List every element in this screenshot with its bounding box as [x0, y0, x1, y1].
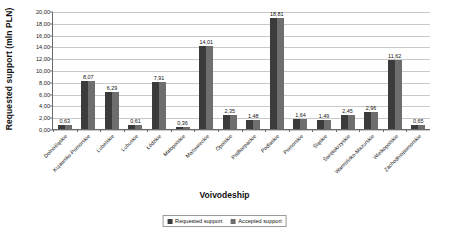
bar-requested-support[interactable]: [223, 115, 230, 129]
x-axis-tick-cell: Podkarpackie: [241, 131, 265, 189]
x-axis-tick-cell: Warmińsko-Mazurskie: [359, 131, 383, 189]
bar-accepted-support[interactable]: [253, 120, 260, 129]
bar-requested-support[interactable]: [411, 125, 418, 129]
bar-requested-support[interactable]: [364, 112, 371, 129]
x-axis-tick-cell: Mazowieckie: [194, 131, 218, 189]
bar-requested-support[interactable]: [341, 115, 348, 129]
x-axis-tick-cell: Lubelskie: [99, 131, 123, 189]
x-axis-tick-cell: Zachodniopomorskie: [406, 131, 430, 189]
x-axis-tick-cell: Podlaskie: [265, 131, 289, 189]
y-axis-title: Requested support (mln PLN): [2, 8, 16, 130]
bar-value-label: 1,64: [295, 112, 306, 118]
bar-requested-support[interactable]: [388, 60, 395, 129]
y-axis-tick-label: 4,00: [39, 103, 50, 109]
bar-group[interactable]: 8,07: [77, 12, 101, 129]
bar-accepted-support[interactable]: [348, 115, 355, 129]
bar-requested-support[interactable]: [270, 18, 277, 129]
bar-requested-support[interactable]: [317, 120, 324, 129]
bar-requested-support[interactable]: [58, 125, 65, 129]
bar-requested-support[interactable]: [199, 46, 206, 129]
bar-value-label: 1,48: [248, 113, 259, 119]
bar-value-label: 0,36: [177, 120, 188, 126]
bar-accepted-support[interactable]: [277, 18, 284, 129]
bar-group[interactable]: 1,48: [242, 12, 266, 129]
x-axis-tick-cell: Lubuskie: [123, 131, 147, 189]
bar-value-label: 2,35: [224, 108, 235, 114]
bar-group[interactable]: 7,91: [147, 12, 171, 129]
bar-accepted-support[interactable]: [418, 125, 425, 129]
bar-value-label: 0,63: [60, 118, 71, 124]
x-axis-title: Voivodeship: [0, 190, 449, 200]
bar-group[interactable]: 1,49: [312, 12, 336, 129]
bar-requested-support[interactable]: [293, 119, 300, 129]
bar-group[interactable]: 2,45: [336, 12, 360, 129]
bar-accepted-support[interactable]: [112, 92, 119, 129]
chart-legend: Requested support Accepted support: [162, 215, 287, 227]
bar-accepted-support[interactable]: [324, 120, 331, 129]
bar-accepted-support[interactable]: [300, 119, 307, 129]
bar-value-label: 2,96: [366, 105, 377, 111]
bar-requested-support[interactable]: [81, 81, 88, 129]
bar-accepted-support[interactable]: [395, 60, 402, 129]
bar-accepted-support[interactable]: [230, 115, 237, 129]
bar-accepted-support[interactable]: [371, 112, 378, 129]
x-axis-tick-cell: Kujawsko-Pomorskie: [76, 131, 100, 189]
y-axis-tick-label: 16,00: [36, 33, 50, 39]
bar-group[interactable]: 18,81: [265, 12, 289, 129]
x-axis-tick-cell: Łódzkie: [147, 131, 171, 189]
plot-area: 0,002,004,006,008,0010,0012,0014,0016,00…: [52, 12, 430, 130]
bar-group[interactable]: 14,01: [194, 12, 218, 129]
bar-accepted-support[interactable]: [88, 81, 95, 129]
legend-item-requested-support: Requested support: [167, 218, 222, 224]
bar-group[interactable]: 11,62: [383, 12, 407, 129]
bar-requested-support[interactable]: [152, 82, 159, 129]
x-axis-tick-label: Lubuskie: [119, 133, 139, 153]
bar-accepted-support[interactable]: [183, 127, 190, 129]
bar-value-label: 8,07: [83, 74, 94, 80]
bar-accepted-support[interactable]: [65, 125, 72, 129]
legend-swatch-icon-accepted: [230, 219, 235, 224]
x-axis-tick-cell: Małopolskie: [170, 131, 194, 189]
x-axis-tick-cell: Opolskie: [217, 131, 241, 189]
bar-group[interactable]: 0,63: [53, 12, 77, 129]
bar-requested-support[interactable]: [105, 92, 112, 129]
bar-group[interactable]: 0,36: [171, 12, 195, 129]
y-axis-tick-label: 2,00: [39, 115, 50, 121]
bar-group[interactable]: 2,96: [359, 12, 383, 129]
legend-label-accepted: Accepted support: [238, 218, 282, 224]
bar-group[interactable]: 0,65: [406, 12, 430, 129]
bar-group[interactable]: 6,29: [100, 12, 124, 129]
bar-accepted-support[interactable]: [135, 125, 142, 129]
x-axis-tick-cell: Pomorskie: [288, 131, 312, 189]
y-axis-tick-label: 20,00: [36, 9, 50, 15]
bar-value-label: 0,61: [130, 118, 141, 124]
bar-group[interactable]: 1,64: [289, 12, 313, 129]
bar-value-label: 11,62: [388, 53, 401, 59]
x-axis-tick-label: Opolskie: [214, 133, 233, 152]
bar-value-label: 0,65: [413, 118, 424, 124]
x-axis-tick-label: Łódzkie: [145, 133, 162, 150]
y-axis-tick-label: 6,00: [39, 92, 50, 98]
bar-accepted-support[interactable]: [159, 82, 166, 129]
bar-value-label: 7,91: [154, 75, 165, 81]
legend-swatch-icon-requested: [167, 219, 172, 224]
legend-label-requested: Requested support: [175, 218, 222, 224]
y-axis-tick-label: 14,00: [36, 44, 50, 50]
bar-group[interactable]: 0,61: [124, 12, 148, 129]
bar-accepted-support[interactable]: [206, 46, 213, 129]
y-axis-tick-label: 0,00: [39, 127, 50, 133]
y-axis-tick-label: 12,00: [36, 56, 50, 62]
bar-group[interactable]: 2,35: [218, 12, 242, 129]
legend-item-accepted-support: Accepted support: [230, 218, 282, 224]
bar-requested-support[interactable]: [176, 127, 183, 129]
bar-value-label: 14,01: [199, 39, 213, 45]
bar-value-label: 6,29: [107, 85, 118, 91]
x-axis-tick-labels: DolnośląskieKujawsko-PomorskieLubelskieL…: [52, 131, 430, 189]
x-axis-tick-label: Śląskie: [311, 133, 328, 150]
y-axis-tick-label: 10,00: [36, 68, 50, 74]
bar-requested-support[interactable]: [128, 125, 135, 129]
bar-requested-support[interactable]: [246, 120, 253, 129]
bar-value-label: 2,45: [342, 108, 353, 114]
y-axis-tick-label: 18,00: [36, 21, 50, 27]
y-axis-tick-label: 8,00: [39, 80, 50, 86]
